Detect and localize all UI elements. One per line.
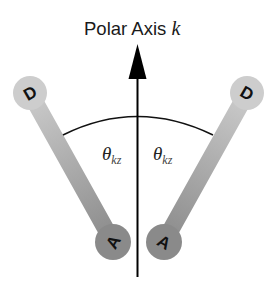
right-dipole-bar — [164, 93, 247, 242]
left-angle-label: θkz — [102, 143, 122, 167]
left-dipole-bar — [30, 93, 113, 242]
right-angle-label: θkz — [153, 143, 173, 167]
diagram-title: Polar Axis k — [84, 17, 181, 39]
polar-axis-diagram: Polar Axis k D A D A θkz θkz — [0, 0, 276, 289]
polar-axis-arrowhead-icon — [129, 44, 147, 79]
left-dipole: D A — [13, 76, 131, 260]
axis-variable: k — [171, 17, 181, 39]
right-dipole: D A — [146, 76, 264, 260]
